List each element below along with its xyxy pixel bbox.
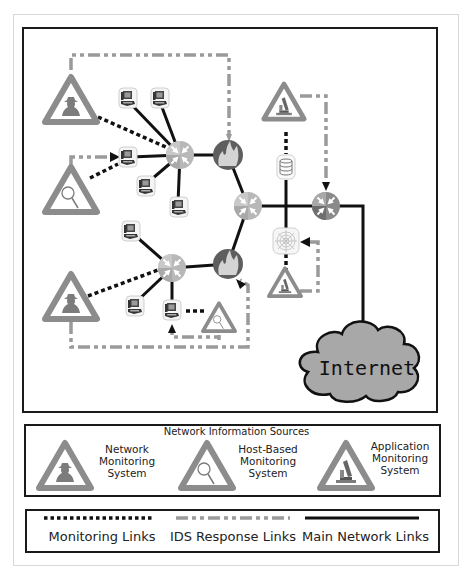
workstation-icon: [119, 88, 137, 108]
legend-network-monitoring-icon: [39, 443, 91, 488]
legend-network-monitoring-label: Network Monitoring System: [92, 443, 162, 479]
workstation-icon: [126, 296, 144, 316]
label-line: Monitoring: [365, 452, 435, 464]
legend-monitoring-links-label: Monitoring Links: [46, 530, 158, 545]
host-monitoring-sensor-icon: [45, 167, 97, 212]
router-icon: [312, 192, 340, 220]
workstation-icon: [151, 88, 169, 108]
workstation-icon: [122, 221, 140, 241]
sources-legend-title: Network Information Sources: [0, 426, 473, 438]
legend-application-monitoring-label: Application Monitoring System: [365, 440, 435, 476]
legend-host-monitoring-icon: [181, 443, 233, 488]
database-icon: [277, 155, 295, 179]
label-line: Host-Based: [228, 443, 308, 455]
internet-label: Internet: [317, 356, 417, 380]
workstation-icon: [170, 197, 188, 217]
label-line: System: [92, 467, 162, 479]
web-server-icon: [273, 228, 299, 254]
firewall-icon: [213, 249, 243, 279]
legend-host-monitoring-label: Host-Based Monitoring System: [228, 443, 308, 479]
workstation-icon: [163, 300, 181, 320]
network-monitoring-sensor-icon: [45, 77, 97, 122]
application-monitoring-sensor-icon: [264, 84, 305, 119]
router-icon: [166, 141, 194, 169]
router-icon: [234, 192, 262, 220]
label-line: Monitoring: [92, 455, 162, 467]
label-line: System: [228, 467, 308, 479]
legend-main-network-links-label: Main Network Links: [302, 530, 424, 545]
legend-ids-response-links-label: IDS Response Links: [168, 530, 298, 545]
router-icon: [158, 254, 186, 282]
label-line: System: [365, 464, 435, 476]
workstation-icon: [119, 147, 137, 167]
application-monitoring-sensor-icon: [269, 268, 301, 296]
label-line: Application: [365, 440, 435, 452]
label-line: Monitoring: [228, 455, 308, 467]
workstation-icon: [137, 176, 155, 196]
label-line: Network: [92, 443, 162, 455]
host-monitoring-sensor-icon: [203, 303, 235, 331]
firewall-icon: [213, 140, 243, 170]
